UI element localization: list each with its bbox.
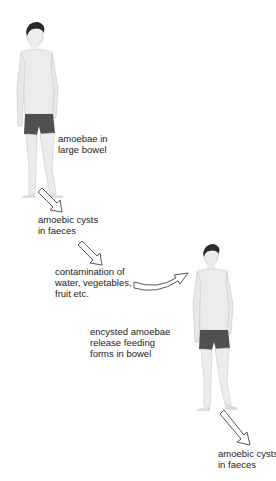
arrow-down-icon: [38, 186, 68, 216]
arrow-down-icon: [78, 239, 108, 269]
label-amoebic-cysts-in-faeces-1: amoebic cysts in faeces: [38, 214, 98, 236]
label-amoebic-cysts-in-faeces-2: amoebic cysts in faeces: [218, 448, 276, 470]
curved-arrow-icon: [132, 270, 192, 296]
human-figure-new-host: [187, 242, 247, 412]
human-figure-infected: [8, 18, 68, 198]
arrow-down-icon: [220, 408, 254, 448]
label-amoebae-in-large-bowel: amoebae in large bowel: [58, 133, 108, 155]
label-contamination: contamination of water, vegetables, frui…: [55, 266, 132, 299]
label-encysted-amoebae: encysted amoebae release feeding forms i…: [90, 326, 170, 359]
